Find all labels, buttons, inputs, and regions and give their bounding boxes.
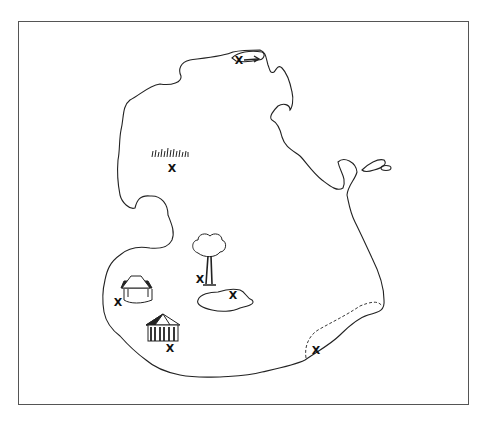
- x-mark-tree: X: [196, 274, 204, 285]
- x-mark-pond: X: [229, 290, 237, 301]
- island-coastline: [103, 50, 385, 377]
- x-mark-north-cove: X: [235, 55, 243, 66]
- pond: [198, 289, 253, 311]
- well-icon: [121, 276, 152, 303]
- hut-icon: [146, 314, 180, 341]
- canoe-icon: [244, 59, 258, 60]
- grass-icon: [152, 148, 188, 157]
- island-map: [0, 0, 488, 423]
- x-mark-beach: X: [312, 345, 320, 356]
- x-mark-grassland: X: [168, 163, 176, 174]
- east-islet-small: [381, 166, 391, 171]
- x-mark-well: X: [114, 297, 122, 308]
- x-mark-hut: X: [166, 343, 174, 354]
